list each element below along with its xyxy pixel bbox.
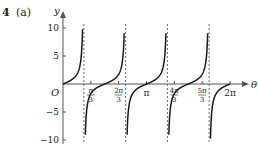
x-axis-label: θ [251, 79, 257, 90]
y-tick-label: −10 [40, 135, 59, 145]
x-tick-label: π [144, 88, 150, 98]
y-tick-label: 10 [48, 23, 60, 33]
x-tick-label-denominator: 3 [116, 96, 120, 104]
x-tick-label-numerator: 5π [198, 87, 207, 95]
x-tick-label-denominator: 3 [89, 96, 93, 104]
tan-chart: π32π3π4π35π32π105−5−10yθO [0, 0, 258, 148]
y-axis-arrow [60, 11, 66, 18]
x-tick-label-denominator: 3 [172, 96, 176, 104]
x-axis-arrow [242, 81, 249, 87]
x-tick-label-numerator: π [89, 87, 94, 95]
x-tick-label-numerator: 4π [170, 87, 179, 95]
curve-branch [63, 29, 83, 84]
y-tick-label: 5 [53, 51, 59, 61]
x-tick-label-numerator: 2π [114, 87, 123, 95]
y-axis-label: y [53, 5, 60, 16]
y-tick-label: −5 [46, 107, 60, 117]
x-tick-label-denominator: 3 [200, 96, 204, 104]
origin-label: O [51, 87, 59, 98]
x-tick-label: 2π [224, 88, 236, 98]
